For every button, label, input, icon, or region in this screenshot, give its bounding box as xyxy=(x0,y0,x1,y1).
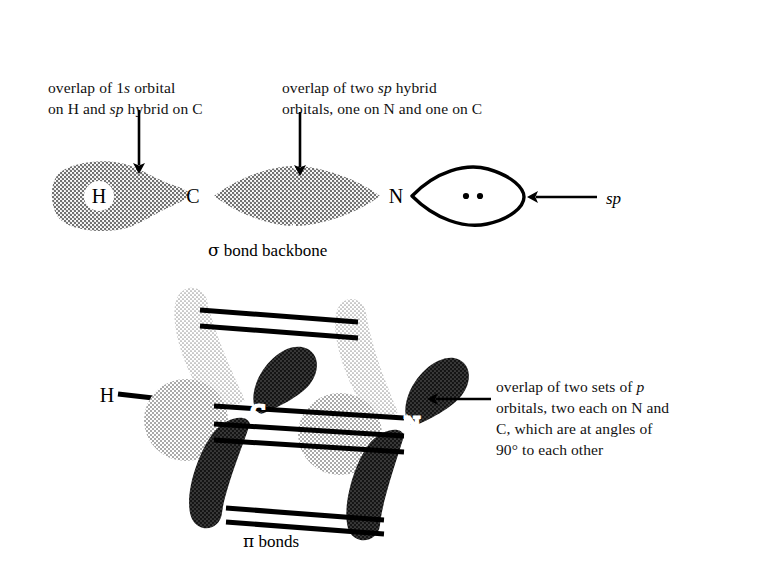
lone-pair-dot-1 xyxy=(463,193,469,199)
pi-bonds-group: C N H xyxy=(100,288,491,541)
orbital-artwork: H C N sp xyxy=(0,0,758,577)
atom-label-H-pi: H xyxy=(100,384,114,406)
n-sp-lobe xyxy=(289,166,380,226)
sp-lone-pair-label: sp xyxy=(606,189,621,208)
atom-label-N-pi-halo: N xyxy=(404,412,419,436)
h-c-sigma-overlap-lobe xyxy=(52,161,191,231)
pi-bond-line-back-1 xyxy=(200,310,358,322)
pi-bond-line-back-2 xyxy=(200,326,358,338)
atom-label-H-sigma: H xyxy=(92,185,106,207)
atom-label-N-sigma: N xyxy=(389,185,403,207)
lone-pair-dot-2 xyxy=(477,193,483,199)
c-sp-lobe xyxy=(214,166,299,226)
orbital-diagram-figure: overlap of 1s orbitalon H and sp hybrid … xyxy=(0,0,758,577)
sigma-backbone-group: H C N sp xyxy=(52,110,621,231)
atom-label-C-pi-halo: C xyxy=(251,400,265,424)
atom-label-C-sigma: C xyxy=(186,185,199,207)
